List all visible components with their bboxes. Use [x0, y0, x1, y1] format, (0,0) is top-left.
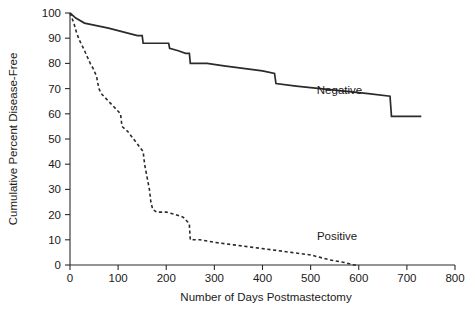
y-tick-label: 60 [48, 108, 61, 120]
y-tick-label: 100 [42, 7, 61, 19]
x-tick-label: 600 [349, 272, 368, 284]
y-tick-label: 30 [48, 183, 61, 195]
y-tick-label: 10 [48, 234, 61, 246]
series-label-positive: Positive [317, 230, 357, 242]
x-tick-label: 700 [397, 272, 416, 284]
series-label-negative: Negative [317, 84, 362, 96]
x-tick-label: 800 [445, 272, 464, 284]
y-tick-label: 20 [48, 209, 61, 221]
y-axis-ticks [65, 13, 70, 265]
x-tick-label: 200 [157, 272, 176, 284]
x-tick-label: 100 [109, 272, 128, 284]
survival-curve-chart: 0102030405060708090100 Cumulative Percen… [0, 0, 475, 318]
x-tick-label: 400 [253, 272, 272, 284]
y-tick-label: 40 [48, 158, 61, 170]
y-tick-label: 0 [55, 259, 61, 271]
x-tick-label: 0 [67, 272, 73, 284]
y-tick-label: 70 [48, 83, 61, 95]
series-line-negative [70, 13, 421, 116]
x-tick-label: 500 [301, 272, 320, 284]
series-annotations: Negative Positive [317, 84, 362, 242]
x-axis-title: Number of Days Postmastectomy [180, 291, 352, 303]
y-axis-tick-labels: 0102030405060708090100 [42, 7, 61, 271]
figure-container: 0102030405060708090100 Cumulative Percen… [0, 0, 475, 318]
y-axis-title: Cumulative Percent Disease-Free [7, 53, 19, 226]
series-group [70, 13, 421, 265]
y-axis: 0102030405060708090100 Cumulative Percen… [7, 7, 70, 271]
x-tick-label: 300 [205, 272, 224, 284]
y-tick-label: 80 [48, 57, 61, 69]
series-line-positive [70, 13, 358, 265]
y-tick-label: 90 [48, 32, 61, 44]
x-axis-tick-labels: 0100200300400500600700800 [67, 272, 465, 284]
x-axis-ticks [70, 265, 455, 270]
x-axis: 0100200300400500600700800 Number of Days… [67, 265, 465, 303]
y-tick-label: 50 [48, 133, 61, 145]
